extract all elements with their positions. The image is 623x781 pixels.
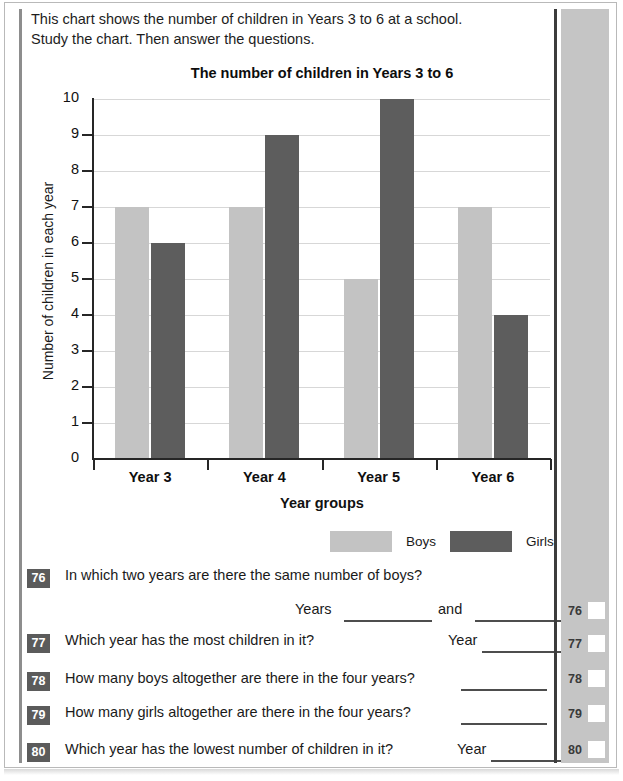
bar-year-6-boys — [458, 207, 492, 459]
marking-item: 77 — [561, 633, 609, 655]
marking-number: 80 — [564, 739, 586, 761]
marking-number: 78 — [564, 668, 586, 690]
question-text: In which two years are there the same nu… — [65, 567, 422, 583]
legend-swatch-girls — [450, 531, 512, 552]
marking-checkbox[interactable] — [588, 635, 605, 652]
marking-checkbox[interactable] — [588, 705, 605, 722]
answer-blank-1[interactable] — [344, 620, 432, 622]
bar-year-4-girls — [265, 135, 299, 459]
bar-year-4-boys — [229, 207, 263, 459]
y-tick-label: 0 — [45, 449, 79, 465]
marking-number: 79 — [564, 703, 586, 725]
legend-label-boys: Boys — [406, 534, 436, 549]
gridline — [93, 135, 550, 136]
category-separator — [93, 459, 95, 470]
marking-number: 77 — [564, 633, 586, 655]
marking-item: 79 — [561, 703, 609, 725]
answer-blank[interactable] — [461, 723, 547, 725]
marking-checkbox[interactable] — [588, 741, 605, 758]
page-shadow — [4, 769, 619, 775]
chart-title: The number of children in Years 3 to 6 — [93, 65, 551, 81]
legend-item-boys: Boys — [330, 530, 436, 552]
category-separator — [550, 459, 552, 470]
answer-lead-years: Years — [295, 601, 332, 617]
bar-year-6-girls — [494, 315, 528, 459]
bar-chart: The number of children in Years 3 to 6 N… — [5, 3, 565, 563]
category-separator — [436, 459, 438, 470]
answer-blank[interactable] — [491, 760, 571, 762]
bar-year-3-girls — [151, 243, 185, 459]
y-tick-label: 1 — [45, 413, 79, 429]
question-row: 78How many boys altogether are there in … — [27, 669, 547, 699]
y-tick-label: 9 — [45, 125, 79, 141]
question-row: 76In which two years are there the same … — [27, 566, 547, 596]
marking-number: 76 — [564, 600, 586, 622]
question-row: 80Which year has the lowest number of ch… — [27, 740, 547, 770]
y-tick-label: 10 — [45, 89, 79, 105]
legend-item-girls: Girls — [450, 530, 554, 552]
x-tick-label-year-6: Year 6 — [436, 469, 550, 485]
question-number-badge: 79 — [27, 706, 50, 725]
y-tick-label: 6 — [45, 233, 79, 249]
question-text: Which year has the most children in it? — [65, 632, 314, 648]
y-tick-label: 5 — [45, 269, 79, 285]
question-number-badge: 77 — [27, 634, 50, 653]
x-tick-label-year-4: Year 4 — [207, 469, 321, 485]
category-separator — [322, 459, 324, 470]
x-axis-label: Year groups — [93, 495, 551, 511]
category-separator — [207, 459, 209, 470]
legend-label-girls: Girls — [526, 534, 554, 549]
question-text: How many boys altogether are there in th… — [65, 670, 415, 686]
bar-year-3-boys — [115, 207, 149, 459]
margin-divider-rule — [554, 9, 557, 763]
plot-area: 109876543210 — [93, 99, 550, 459]
bar-year-5-boys — [344, 279, 378, 459]
answer-lead-and: and — [438, 601, 462, 617]
question-row: 77Which year has the most children in it… — [27, 631, 547, 661]
question-number-badge: 80 — [27, 743, 50, 762]
question-text: How many girls altogether are there in t… — [65, 704, 411, 720]
answer-blank-2[interactable] — [475, 620, 563, 622]
question-number-badge: 76 — [27, 569, 50, 588]
answer-blank[interactable] — [461, 689, 547, 691]
y-tick-label: 2 — [45, 377, 79, 393]
marking-checkbox[interactable] — [588, 602, 605, 619]
marking-checkbox[interactable] — [588, 670, 605, 687]
marking-item: 78 — [561, 668, 609, 690]
y-tick-label: 3 — [45, 341, 79, 357]
worksheet-page: This chart shows the number of children … — [4, 2, 617, 768]
y-tick-label: 7 — [45, 197, 79, 213]
x-tick-label-year-5: Year 5 — [322, 469, 436, 485]
answer-lead: Year — [448, 632, 477, 648]
marking-item: 76 — [561, 600, 609, 622]
answer-lead: Year — [457, 741, 486, 757]
gridline — [93, 171, 550, 172]
question-answer-row: Yearsand — [27, 600, 547, 630]
bar-year-5-girls — [380, 99, 414, 459]
y-tick-label: 8 — [45, 161, 79, 177]
y-axis-line — [92, 98, 94, 460]
y-tick-label: 4 — [45, 305, 79, 321]
legend-swatch-boys — [330, 531, 392, 552]
gridline — [93, 99, 550, 100]
question-text: Which year has the lowest number of chil… — [65, 741, 393, 757]
question-number-badge: 78 — [27, 672, 50, 691]
marking-item: 80 — [561, 739, 609, 761]
x-tick-label-year-3: Year 3 — [93, 469, 207, 485]
question-row: 79How many girls altogether are there in… — [27, 703, 547, 733]
